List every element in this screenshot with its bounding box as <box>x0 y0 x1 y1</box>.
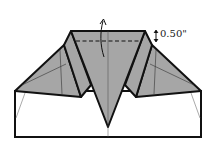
dimension-arrow-bottom <box>154 39 158 42</box>
measurement-label: 0.50" <box>160 28 187 39</box>
origami-diagram <box>0 0 212 147</box>
dimension-arrow-top <box>154 30 158 33</box>
